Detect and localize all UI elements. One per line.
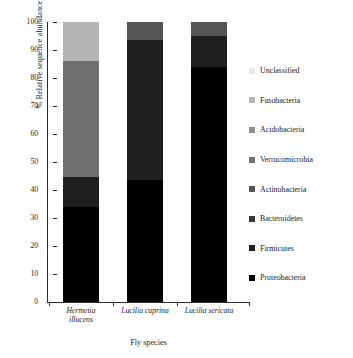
legend-swatch	[249, 127, 255, 133]
y-tick-label: 70	[30, 101, 38, 111]
legend-label: Firmicutes	[260, 244, 294, 253]
bar-segment[interactable]	[191, 67, 227, 302]
y-tick-label: 50	[30, 157, 38, 167]
chart-figure: % Relative sequence abundance 0102030405…	[0, 0, 353, 358]
y-tick-label: 60	[30, 129, 38, 139]
x-axis-label: Lucilia sericata	[164, 306, 254, 315]
legend-label: Fusobacteria	[260, 96, 300, 105]
legend-item-unclassified[interactable]: Unclassified	[249, 56, 353, 86]
bar-segment[interactable]	[191, 22, 227, 36]
y-tick-mark	[53, 106, 57, 107]
legend-item-proteobacteria[interactable]: Proteobacteria	[249, 263, 353, 293]
legend-item-bacteroidetes[interactable]: Bacteroidetes	[249, 204, 353, 234]
y-tick-mark	[53, 50, 57, 51]
y-tick-mark	[53, 246, 57, 247]
legend-swatch	[249, 68, 255, 74]
plot-area: 0102030405060708090100 HermetiaillucensL…	[47, 22, 233, 302]
legend-label: Actinobacteria	[260, 185, 306, 194]
bar-segment[interactable]	[127, 40, 163, 180]
legend-label: Proteobacteria	[260, 273, 306, 282]
legend-swatch	[249, 245, 255, 251]
legend-item-actinobacteria[interactable]: Actinobacteria	[249, 174, 353, 204]
legend-label: Acidobacteria	[260, 125, 304, 134]
bar-segment[interactable]	[63, 61, 99, 177]
chart-legend: UnclassifiedFusobacteriaAcidobacteriaVer…	[249, 56, 353, 293]
legend-label: Unclassified	[260, 66, 299, 75]
legend-swatch	[249, 157, 255, 163]
bar-segment[interactable]	[63, 177, 99, 208]
y-tick-mark	[53, 302, 57, 303]
legend-item-firmicutes[interactable]: Firmicutes	[249, 234, 353, 264]
bar-segment[interactable]	[127, 22, 163, 40]
legend-swatch	[249, 216, 255, 222]
y-tick-mark	[53, 162, 57, 163]
legend-swatch	[249, 97, 255, 103]
legend-item-acidobacteria[interactable]: Acidobacteria	[249, 115, 353, 145]
y-axis-line	[47, 22, 48, 302]
y-tick-label: 0	[34, 297, 38, 307]
y-tick-mark	[53, 274, 57, 275]
y-tick-label: 80	[30, 73, 38, 83]
y-tick-label: 40	[30, 185, 38, 195]
legend-swatch	[249, 275, 255, 281]
y-tick-mark	[53, 78, 57, 79]
y-tick-mark	[53, 218, 57, 219]
y-tick-label: 100	[27, 17, 38, 27]
y-tick-label: 30	[30, 213, 38, 223]
bar-segment[interactable]	[63, 207, 99, 302]
legend-label: Verrucomicrobia	[260, 155, 313, 164]
y-tick-mark	[53, 22, 57, 23]
legend-label: Bacteroidetes	[260, 214, 303, 223]
y-tick-mark	[53, 134, 57, 135]
bar-segment[interactable]	[127, 180, 163, 302]
y-tick-mark	[53, 190, 57, 191]
legend-item-verrucomicrobia[interactable]: Verrucomicrobia	[249, 145, 353, 175]
bar-segment[interactable]	[63, 22, 99, 61]
x-axis-title: Fly species	[47, 338, 250, 347]
legend-swatch	[249, 186, 255, 192]
x-axis-line	[47, 302, 250, 303]
legend-item-fusobacteria[interactable]: Fusobacteria	[249, 86, 353, 116]
bar-segment[interactable]	[191, 36, 227, 67]
y-tick-label: 90	[30, 45, 38, 55]
y-tick-label: 20	[30, 241, 38, 251]
y-tick-label: 10	[30, 269, 38, 279]
